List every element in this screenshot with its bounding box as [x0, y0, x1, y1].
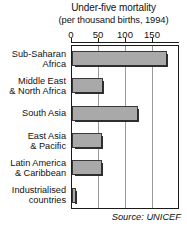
bar-rows: Sub-SaharanAfricaMiddle East& North Afri…	[0, 45, 187, 209]
category-label-line: & Pacific	[0, 141, 66, 151]
bar-container	[72, 127, 102, 154]
bar-row: South Asia	[0, 100, 187, 127]
bar-0	[72, 51, 167, 66]
bar-container	[72, 45, 167, 72]
bar-container	[72, 100, 138, 127]
x-axis-tick-mark-100	[125, 38, 126, 43]
source-attribution: Source: UNICEF	[0, 212, 181, 222]
category-label-line: Africa	[0, 59, 66, 69]
x-axis-tick-mark-0	[71, 38, 72, 43]
category-label-0: Sub-SaharanAfrica	[0, 49, 68, 69]
x-axis-tick-labels: 050100150	[0, 29, 187, 41]
x-axis-tick-mark-150	[152, 38, 153, 43]
bar-3	[72, 133, 102, 148]
category-label-line: Middle East	[0, 76, 66, 86]
bar-2	[72, 106, 138, 121]
source-name: UNICEF	[146, 212, 181, 222]
category-label-2: South Asia	[0, 108, 68, 118]
bar-row: East Asia& Pacific	[0, 127, 187, 154]
category-label-4: Latin America& Caribbean	[0, 158, 68, 178]
bar-row: Sub-SaharanAfrica	[0, 45, 187, 72]
bar-container	[72, 182, 76, 209]
category-label-line: South Asia	[0, 108, 66, 118]
x-axis-tick-mark-50	[98, 38, 99, 43]
bar-5	[72, 188, 76, 203]
category-label-3: East Asia& Pacific	[0, 131, 68, 151]
chart-title: Under-five mortality	[42, 2, 185, 14]
bar-row: Industrialisedcountries	[0, 182, 187, 209]
bar-container	[72, 72, 103, 99]
bar-1	[72, 78, 103, 93]
category-label-line: Latin America	[0, 158, 66, 168]
category-label-1: Middle East& North Africa	[0, 76, 68, 96]
bar-row: Latin America& Caribbean	[0, 154, 187, 181]
bar-4	[72, 160, 102, 175]
category-label-line: Industrialised	[0, 185, 66, 195]
bar-row: Middle East& North Africa	[0, 72, 187, 99]
category-label-line: Sub-Saharan	[0, 49, 66, 59]
category-label-line: East Asia	[0, 131, 66, 141]
category-label-line: countries	[0, 195, 66, 205]
category-label-5: Industrialisedcountries	[0, 185, 68, 205]
under-five-mortality-chart: Under-five mortality (per thousand birth…	[0, 0, 187, 230]
bar-container	[72, 154, 102, 181]
chart-title-block: Under-five mortality (per thousand birth…	[42, 2, 185, 26]
chart-subtitle: (per thousand births, 1994)	[42, 14, 185, 26]
source-prefix: Source:	[112, 212, 144, 222]
category-label-line: & Caribbean	[0, 168, 66, 178]
category-label-line: & North Africa	[0, 86, 66, 96]
